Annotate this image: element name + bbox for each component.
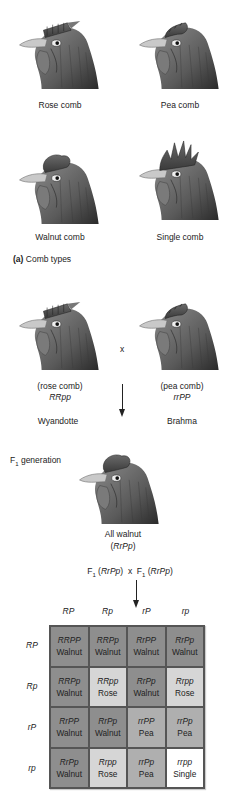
arrow-line-p-to-f1 <box>122 384 123 410</box>
cell-genotype: RRPp <box>58 675 80 687</box>
punnett-col-header: Rp <box>88 606 127 616</box>
walnut-comb-label: Walnut comb <box>14 232 106 242</box>
punnett-cell: rrPPPea <box>127 707 166 748</box>
cell-phenotype: Walnut <box>172 646 198 658</box>
punnett-row-header: RP <box>22 640 42 650</box>
parent1-phenotype: (rose comb) <box>24 381 96 391</box>
cell-genotype: Rrpp <box>99 756 117 768</box>
panel-label-prefix: (a) <box>13 254 23 264</box>
cell-phenotype: Rose <box>98 768 117 780</box>
punnett-cell: RrPpWalnut <box>89 707 128 748</box>
arrow-down-icon <box>119 409 125 417</box>
rooster-pea-comb-image <box>134 5 226 95</box>
punnett-row-header: Rp <box>22 681 42 691</box>
cell-genotype: RRPp <box>97 634 119 646</box>
cross-symbol: x <box>120 344 124 354</box>
cell-phenotype: Walnut <box>95 646 121 658</box>
cell-phenotype: Walnut <box>133 687 159 699</box>
punnett-cell: RrPpWalnut <box>50 748 89 789</box>
cell-genotype: RrPp <box>60 756 79 768</box>
punnett-cell: RRppRose <box>89 667 128 708</box>
punnett-cell: RrPPWalnut <box>50 707 89 748</box>
pea-comb-label: Pea comb <box>134 100 226 110</box>
cell-phenotype: Walnut <box>95 727 121 739</box>
cell-phenotype: Pea <box>139 727 154 739</box>
cell-genotype: RRPP <box>58 634 81 646</box>
cell-phenotype: Pea <box>177 727 192 739</box>
cell-genotype: RrPp <box>98 715 117 727</box>
cell-phenotype: Single <box>173 768 196 780</box>
cell-genotype: Rrpp <box>176 675 194 687</box>
punnett-cell: rrPpPea <box>127 748 166 789</box>
f1-result: All walnut <box>90 529 156 539</box>
punnett-cell: RrppRose <box>166 667 205 708</box>
cell-phenotype: Walnut <box>133 646 159 658</box>
punnett-cell: RrPPWalnut <box>127 626 166 667</box>
cell-phenotype: Pea <box>139 768 154 780</box>
punnett-cell: rrPpPea <box>166 707 205 748</box>
rooster-rose-comb-image <box>14 5 106 95</box>
punnett-cell: RrPpWalnut <box>166 626 205 667</box>
cell-phenotype: Walnut <box>56 727 82 739</box>
panel-label: (a) Comb types <box>13 254 71 264</box>
cell-phenotype: Walnut <box>56 646 82 658</box>
rooster-walnut-comb-image <box>14 140 106 230</box>
parent2-phenotype: (pea comb) <box>146 381 218 391</box>
punnett-cell: rrppSingle <box>166 748 205 789</box>
punnett-cell: RrppRose <box>89 748 128 789</box>
rooster-parent-rose-image <box>14 286 106 376</box>
rose-comb-label: Rose comb <box>14 100 106 110</box>
cell-phenotype: Rose <box>98 687 117 699</box>
punnett-row-header: rp <box>22 763 42 773</box>
punnett-cell: RRPpWalnut <box>89 626 128 667</box>
parent1-breed: Wyandotte <box>22 416 94 426</box>
cell-phenotype: Walnut <box>56 687 82 699</box>
punnett-col-header: rP <box>127 606 166 616</box>
arrow-line-f1-to-f2 <box>136 580 137 602</box>
cell-genotype: RrPP <box>59 715 79 727</box>
punnett-cell: RRPpWalnut <box>50 667 89 708</box>
cell-genotype: rrPP <box>138 715 155 727</box>
single-comb-label: Single comb <box>134 232 226 242</box>
cell-genotype: RrPp <box>137 675 156 687</box>
cell-genotype: rrPp <box>177 715 193 727</box>
cell-phenotype: Rose <box>175 687 194 699</box>
panel-label-text: Comb types <box>26 254 71 264</box>
punnett-col-header: RP <box>49 606 88 616</box>
cell-genotype: RrPp <box>175 634 194 646</box>
parent1-genotype: RRpp <box>24 392 96 402</box>
rooster-f1-walnut-image <box>74 440 166 530</box>
rooster-parent-pea-image <box>134 286 226 376</box>
parent2-genotype: rrPP <box>146 392 218 402</box>
f1-genotype: (RrPp) <box>90 541 156 551</box>
cell-phenotype: Walnut <box>56 768 82 780</box>
punnett-col-header: rp <box>166 606 205 616</box>
cell-genotype: rrpp <box>177 756 192 768</box>
f1-generation-label: F1 generation <box>10 455 61 467</box>
parent2-breed: Brahma <box>146 416 218 426</box>
cell-genotype: RRpp <box>97 675 118 687</box>
f1-self-cross: F1 (RrPp) x F1 (RrPp) <box>70 566 190 578</box>
punnett-cell: RrPpWalnut <box>127 667 166 708</box>
punnett-square: RRPPWalnutRRPpWalnutRrPPWalnutRrPpWalnut… <box>49 625 205 789</box>
rooster-single-comb-image <box>134 136 226 226</box>
punnett-row-header: rP <box>22 722 42 732</box>
punnett-cell: RRPPWalnut <box>50 626 89 667</box>
cell-genotype: RrPP <box>136 634 156 646</box>
cell-genotype: rrPp <box>138 756 154 768</box>
